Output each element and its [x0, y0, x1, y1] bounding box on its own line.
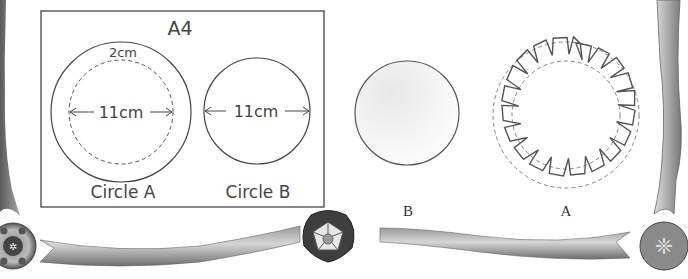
rose-emblem [303, 211, 354, 263]
notched-a-caption: A [561, 203, 572, 219]
notched-circle-a: A [493, 37, 639, 219]
svg-text:✲: ✲ [9, 241, 17, 252]
circle-b-caption: Circle B [226, 182, 291, 202]
a4-sheet: A4 2cm 11cm Circle A 11cm Circle B [41, 11, 324, 207]
left-ribbon-decoration [0, 0, 20, 216]
border-width-label: 2cm [109, 45, 137, 60]
circle-a-diameter-label: 11cm [99, 103, 144, 122]
circle-a-caption: Circle A [91, 182, 156, 202]
circle-b-diameter-label: 11cm [234, 102, 279, 121]
cutout-circle-b: B [355, 61, 459, 219]
right-ribbon-decoration [654, 0, 681, 214]
notched-outline [502, 37, 635, 176]
svg-text:❈: ❈ [655, 234, 673, 259]
right-medallion-icon: ❈ [640, 222, 688, 270]
left-medallion-icon: ✲ [0, 223, 36, 269]
diagram-canvas: A4 2cm 11cm Circle A 11cm Circle B B [0, 0, 688, 279]
a4-label: A4 [167, 17, 192, 39]
cutout-b-caption: B [403, 203, 413, 219]
